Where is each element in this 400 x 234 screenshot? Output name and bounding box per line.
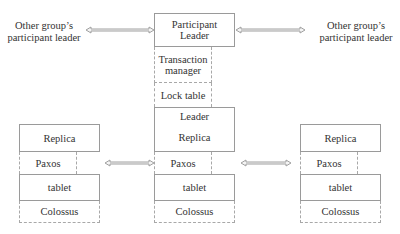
right-replica-box: Replica	[300, 124, 381, 152]
left-replica-box: Replica	[19, 124, 100, 152]
left-colossus-box: Colossus	[19, 201, 100, 223]
transaction-manager-label: Transaction manager	[155, 54, 211, 76]
left-paxos-box: Paxos	[19, 152, 77, 174]
center-paxos-box: Paxos	[154, 152, 212, 174]
leader-box: Leader	[154, 107, 235, 125]
double-arrow-icon	[105, 160, 154, 166]
left-replica-label: Replica	[43, 133, 75, 144]
center-tablet-box: tablet	[154, 174, 235, 201]
center-colossus-label: Colossus	[176, 206, 214, 217]
right-tablet-box: tablet	[300, 174, 381, 201]
center-paxos-label: Paxos	[170, 158, 195, 169]
right-paxos-box: Paxos	[300, 152, 358, 174]
lock-table-label: Lock table	[161, 90, 206, 101]
left-tablet-label: tablet	[48, 182, 71, 193]
left-group: Replica Paxos tablet Colossus	[19, 124, 100, 223]
right-paxos-label: Paxos	[316, 158, 341, 169]
participant-leader-box: Participant Leader	[154, 13, 235, 47]
double-arrow-icon	[86, 27, 154, 33]
right-colossus-box: Colossus	[300, 201, 381, 223]
transaction-manager-box: Transaction manager	[154, 47, 212, 83]
left-paxos-label: Paxos	[35, 158, 60, 169]
center-colossus-box: Colossus	[154, 201, 235, 223]
participant-leader-label: Participant Leader	[165, 19, 225, 41]
lock-table-box: Lock table	[154, 83, 212, 107]
right-group: Replica Paxos tablet Colossus	[300, 124, 381, 223]
leader-label: Leader	[180, 111, 209, 122]
center-tablet-label: tablet	[183, 182, 206, 193]
right-tablet-label: tablet	[329, 182, 352, 193]
double-arrow-icon	[241, 160, 291, 166]
left-colossus-label: Colossus	[41, 206, 79, 217]
left-tablet-box: tablet	[19, 174, 100, 201]
center-replica-box: Replica	[154, 124, 235, 152]
center-replica-label: Replica	[178, 132, 210, 143]
right-colossus-label: Colossus	[322, 206, 360, 217]
center-group: Participant Leader Transaction manager L…	[154, 13, 235, 223]
right-replica-label: Replica	[324, 133, 356, 144]
double-arrow-icon	[236, 27, 305, 33]
